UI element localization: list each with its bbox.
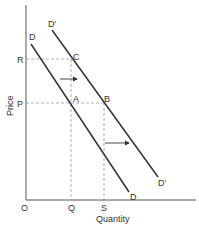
origin-label: O <box>21 203 28 213</box>
demand-curve-d <box>31 44 129 192</box>
point-label-b: B <box>104 94 110 104</box>
demand-shift-diagram: D D′ D D′ C A B R P O Q S Price Quantity <box>0 0 199 226</box>
y-axis-title: Price <box>5 95 15 116</box>
y-tick-r: R <box>17 55 24 65</box>
label-d-top: D <box>29 32 36 42</box>
x-tick-s: S <box>101 203 107 213</box>
label-d-prime-bottom: D′ <box>158 178 166 188</box>
label-d-bottom: D <box>130 192 137 202</box>
point-label-a: A <box>73 94 79 104</box>
label-d-prime-top: D′ <box>48 19 56 29</box>
x-tick-q: Q <box>68 203 75 213</box>
x-axis-title: Quantity <box>96 214 130 224</box>
y-tick-p: P <box>17 99 23 109</box>
point-label-c: C <box>73 52 80 62</box>
